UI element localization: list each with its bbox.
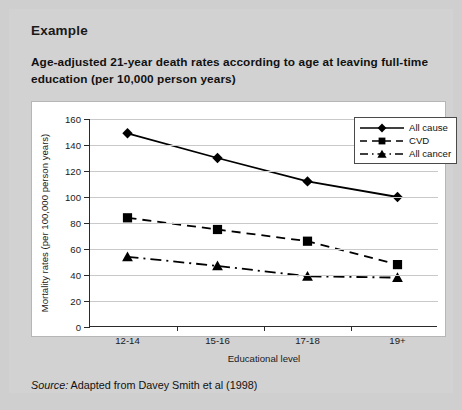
x-axis-tick-label: 15-16 (205, 335, 230, 346)
square-marker-icon (393, 260, 402, 269)
y-axis-tick (84, 119, 90, 120)
grid-line (90, 301, 438, 302)
grid-line (90, 249, 438, 250)
x-axis-tick (177, 326, 178, 331)
y-axis-tick-label: 80 (70, 218, 81, 229)
legend-item-cvd: CVD (359, 134, 451, 147)
y-axis-tick-label: 140 (65, 140, 81, 151)
square-marker-icon (213, 225, 222, 234)
square-marker-icon (123, 213, 132, 222)
y-axis-tick-label: 20 (70, 296, 81, 307)
y-axis-tick-label: 100 (65, 192, 81, 203)
y-axis-tick (84, 327, 90, 328)
grid-line (90, 171, 438, 172)
diamond-marker-icon (212, 153, 222, 163)
legend-label: All cancer (409, 148, 451, 159)
y-axis-tick-label: 40 (70, 270, 81, 281)
legend-label: CVD (409, 135, 429, 146)
y-axis-tick-label: 0 (76, 322, 81, 333)
triangle-marker-icon (392, 272, 403, 282)
y-axis-title: Mortality rates (per 100,000 person year… (39, 133, 50, 312)
y-axis-tick (84, 301, 90, 302)
y-axis-tick-label: 160 (65, 114, 81, 125)
y-axis-tick (84, 197, 90, 198)
chart-panel: Mortality rates (per 100,000 person year… (31, 101, 446, 337)
screenshot-root: Example Age-adjusted 21-year death rates… (0, 0, 462, 410)
legend-item-all-cancer: All cancer (359, 147, 451, 160)
diamond-marker-icon (359, 122, 405, 134)
example-heading: Example (31, 23, 88, 38)
x-axis-tick (351, 326, 352, 331)
y-axis-tick (84, 275, 90, 276)
grid-line (90, 197, 438, 198)
diamond-marker-icon (122, 128, 132, 138)
y-axis-tick (84, 145, 90, 146)
source-label: Source: (31, 379, 68, 391)
y-axis-tick (84, 171, 90, 172)
chart-legend: All cause CVD All cancer (354, 117, 457, 164)
square-marker-icon (303, 237, 312, 246)
grid-line (90, 223, 438, 224)
x-axis-tick (264, 326, 265, 331)
triangle-marker-icon (359, 148, 405, 160)
legend-item-all-cause: All cause (359, 121, 451, 134)
x-axis-tick-label: 12-14 (115, 335, 140, 346)
source-note: Source: Adapted from Davey Smith et al (… (31, 379, 257, 391)
y-axis-tick (84, 223, 90, 224)
source-text: Adapted from Davey Smith et al (1998) (68, 379, 257, 391)
series-line (128, 218, 398, 265)
x-axis-tick-label: 17-18 (295, 335, 320, 346)
chart-title: Age-adjusted 21-year death rates accordi… (31, 54, 431, 88)
y-axis-tick-label: 60 (70, 244, 81, 255)
diamond-marker-icon (302, 176, 312, 186)
grid-line (90, 275, 438, 276)
x-axis-tick-label: 19+ (389, 335, 405, 346)
y-axis-tick-label: 120 (65, 166, 81, 177)
legend-label: All cause (409, 122, 448, 133)
x-axis-title: Educational level (90, 353, 438, 364)
square-marker-icon (359, 135, 405, 147)
y-axis-tick (84, 249, 90, 250)
example-box: Example Age-adjusted 21-year death rates… (9, 9, 453, 393)
